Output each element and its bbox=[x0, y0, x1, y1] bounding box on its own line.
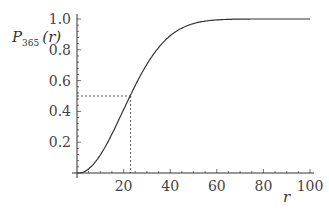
probability-curve bbox=[77, 19, 310, 173]
y-tick-label: 0.4 bbox=[49, 103, 71, 119]
chart: 0.20.40.60.81.0 20406080100 P365(r) r bbox=[0, 0, 329, 211]
svg-text:P365(r): P365(r) bbox=[11, 28, 61, 48]
x-axis-label: r bbox=[283, 188, 291, 206]
x-tick-label: 20 bbox=[115, 178, 133, 194]
y-tick-label: 1.0 bbox=[49, 11, 71, 27]
x-tick-label: 100 bbox=[297, 178, 324, 194]
y-tick-label: 0.2 bbox=[49, 134, 71, 150]
x-tick-label: 40 bbox=[161, 178, 179, 194]
y-axis-label: P365(r) bbox=[11, 28, 61, 48]
y-tick-label: 0.6 bbox=[49, 73, 71, 89]
x-tick-label: 80 bbox=[254, 178, 272, 194]
x-tick-label: 60 bbox=[208, 178, 226, 194]
